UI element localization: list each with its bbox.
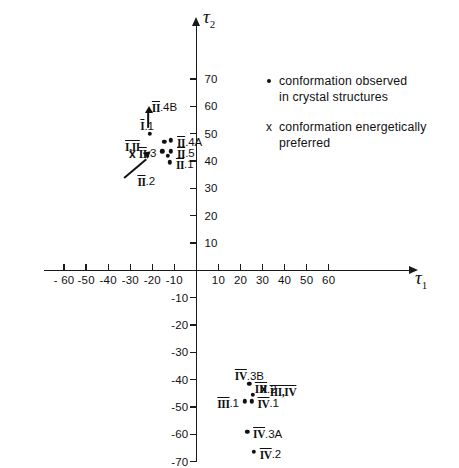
y-tick--70 (190, 461, 196, 462)
legend-preferred-line2: preferred (279, 136, 458, 152)
y-tick-label-50: 50 (204, 128, 217, 140)
data-point (166, 153, 170, 157)
point-label-IV-1: IV.1 (258, 397, 279, 409)
x-tick-60 (328, 264, 329, 270)
y-axis-arrowhead (192, 17, 200, 26)
x-tick-20 (240, 264, 241, 270)
y-axis-title: τ2 (203, 6, 215, 30)
data-point-IV-3A (245, 429, 249, 433)
legend-observed-line1: conformation observed (279, 74, 407, 88)
y-tick-label--20: -20 (150, 319, 188, 331)
legend-item-preferred: x conformation energetically preferred (262, 120, 458, 151)
y-tick-label-20: 20 (204, 210, 217, 222)
y-tick-label-60: 60 (204, 100, 217, 112)
data-point-II-5 (169, 149, 173, 153)
x-tick--10 (174, 264, 175, 270)
annotation-label-II-4B: II.4B (152, 101, 177, 113)
data-point (162, 140, 166, 144)
x-tick-label--60: - 60 (54, 274, 75, 286)
data-point-II-3 (160, 149, 164, 153)
point-label-IV-3B: IV.3B (235, 370, 264, 382)
data-point-IV-1 (249, 399, 253, 403)
data-point-IV-2 (252, 450, 256, 454)
data-point-II-4A (169, 138, 173, 142)
x-axis-title-subscript: 1 (422, 279, 428, 291)
point-label-IV-2: IV.2 (260, 448, 281, 460)
data-point-II-1 (168, 160, 172, 164)
y-axis-title-subscript: 2 (210, 18, 216, 30)
x-tick-label--20: -20 (144, 274, 161, 286)
y-tick--20 (190, 324, 196, 325)
x-tick-label-30: 30 (256, 274, 269, 286)
legend-dot-icon (262, 74, 276, 89)
data-point-I-1 (148, 131, 152, 135)
y-tick--40 (190, 379, 196, 380)
y-tick-label--60: -60 (150, 428, 188, 440)
y-tick-label--30: -30 (150, 346, 188, 358)
y-axis-title-symbol: τ (203, 6, 210, 27)
y-tick--10 (190, 297, 196, 298)
x-tick-10 (218, 264, 219, 270)
x-tick-30 (262, 264, 263, 270)
legend-x-icon: x (262, 120, 276, 135)
y-tick--30 (190, 352, 196, 353)
point-label-II-1: II.1 (176, 158, 194, 170)
x-tick-label-50: 50 (300, 274, 313, 286)
data-point-III-1 (243, 399, 247, 403)
x-tick-label--50: -50 (78, 274, 95, 286)
annotation-label-II-2: II.2 (137, 175, 155, 187)
legend-item-observed: conformation observed in crystal structu… (262, 74, 458, 105)
y-tick-label-10: 10 (204, 237, 217, 249)
legend: conformation observed in crystal structu… (262, 74, 458, 166)
x-tick-label-10: 10 (212, 274, 225, 286)
data-point-IV-3B (247, 382, 251, 386)
x-axis-title: τ1 (415, 267, 427, 291)
y-tick-label--40: -40 (150, 374, 188, 386)
x-axis-title-symbol: τ (415, 267, 422, 288)
x-tick-label-40: 40 (278, 274, 291, 286)
y-tick-label-70: 70 (204, 73, 217, 85)
x-tick--60 (63, 264, 64, 270)
x-tick--30 (130, 264, 131, 270)
y-tick--60 (190, 434, 196, 435)
y-tick-30 (190, 188, 196, 189)
y-tick-10 (190, 242, 196, 243)
x-tick-40 (284, 264, 285, 270)
x-tick-label--40: -40 (100, 274, 117, 286)
y-tick-label-30: 30 (204, 182, 217, 194)
x-tick-label--30: -30 (122, 274, 139, 286)
x-tick-50 (306, 264, 307, 270)
point-label-I-II: I,II (125, 140, 140, 152)
legend-observed-line2: in crystal structures (279, 90, 458, 106)
y-tick-60 (190, 106, 196, 107)
y-tick-20 (190, 215, 196, 216)
legend-preferred-line1: conformation energetically (279, 120, 426, 134)
x-tick--50 (85, 264, 86, 270)
x-tick-label-60: 60 (322, 274, 335, 286)
annotation-label-III-2: III.2 (255, 383, 277, 395)
y-axis-line (196, 22, 198, 462)
y-tick-50 (190, 133, 196, 134)
x-tick--40 (108, 264, 109, 270)
x-axis-line (44, 270, 411, 272)
legend-observed-text: conformation observed in crystal structu… (279, 74, 458, 105)
x-tick-label--10: -10 (166, 274, 183, 286)
point-label-III-1: III.1 (0, 397, 239, 409)
y-tick-label--10: -10 (150, 292, 188, 304)
x-tick--20 (152, 264, 153, 270)
y-tick-label--70: -70 (150, 456, 188, 468)
y-tick-label-40: 40 (204, 155, 217, 167)
x-tick-label-20: 20 (234, 274, 247, 286)
y-tick-70 (190, 78, 196, 79)
point-label-IV-3A: IV.3A (253, 428, 282, 440)
legend-preferred-text: conformation energetically preferred (279, 120, 458, 151)
